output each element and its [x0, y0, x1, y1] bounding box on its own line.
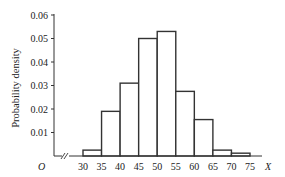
histogram-bar: [213, 150, 232, 156]
x-tick-label: 30: [78, 161, 88, 172]
y-tick-label: 0.06: [31, 10, 49, 21]
y-tick-label: 0.01: [31, 127, 49, 138]
x-tick-label: 45: [134, 161, 144, 172]
histogram-bar: [176, 91, 195, 156]
x-tick-label: 35: [97, 161, 107, 172]
histogram-bar: [83, 150, 102, 156]
x-tick-label: 40: [115, 161, 125, 172]
y-axis-title: Probability density: [10, 47, 21, 127]
histogram-bar: [194, 120, 213, 156]
y-tick-label: 0.02: [31, 104, 49, 115]
x-tick-label: 65: [208, 161, 218, 172]
histogram-bar: [157, 31, 176, 156]
x-tick-label: 60: [189, 161, 199, 172]
x-tick-label: 70: [226, 161, 236, 172]
y-tick-label: 0.03: [31, 80, 49, 91]
y-tick-label: 0.04: [31, 57, 49, 68]
x-tick-label: 75: [245, 161, 255, 172]
histogram-bar: [139, 39, 158, 157]
histogram-bar: [102, 111, 121, 156]
x-axis-ticks: 30354045505560657075: [78, 161, 255, 172]
histogram-bar: [120, 83, 139, 156]
origin-label: O: [38, 161, 45, 172]
axis-break-icon: [61, 153, 68, 159]
y-tick-label: 0.05: [31, 33, 49, 44]
histogram-chart: 0.010.020.030.040.050.06 303540455055606…: [0, 0, 285, 177]
x-tick-label: 55: [171, 161, 181, 172]
x-axis-title: X: [264, 161, 272, 172]
x-tick-label: 50: [152, 161, 162, 172]
y-axis-ticks: 0.010.020.030.040.050.06: [31, 10, 55, 139]
histogram-bars: [83, 31, 250, 156]
